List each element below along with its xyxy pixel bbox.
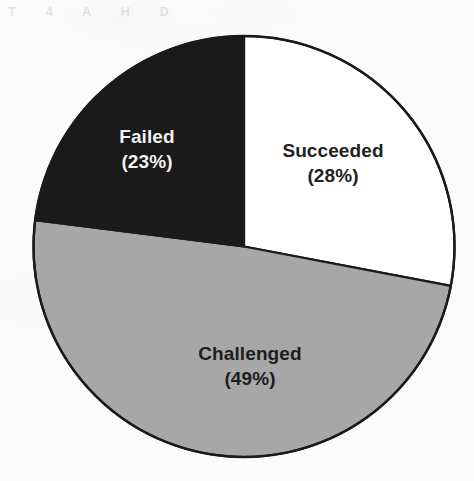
pie-slice-label-failed-percent: (23%) [67,150,227,175]
pie-slice-label-challenged: Challenged (49%) [170,342,330,391]
pie-slice-label-failed-name: Failed [67,125,227,150]
pie-chart-canvas [0,0,474,481]
pie-slice-label-failed: Failed (23%) [67,125,227,174]
pie-slice-group [34,36,455,457]
pie-slice-label-succeeded: Succeeded (28%) [253,139,413,188]
pie-slice-label-challenged-percent: (49%) [170,367,330,392]
pie-slice-label-succeeded-name: Succeeded [253,139,413,164]
pie-chart-figure: T 4 A H D Succeeded (28%) Failed (23%) C… [0,0,474,481]
pie-slice-label-succeeded-percent: (28%) [253,164,413,189]
pie-slice-label-challenged-name: Challenged [170,342,330,367]
